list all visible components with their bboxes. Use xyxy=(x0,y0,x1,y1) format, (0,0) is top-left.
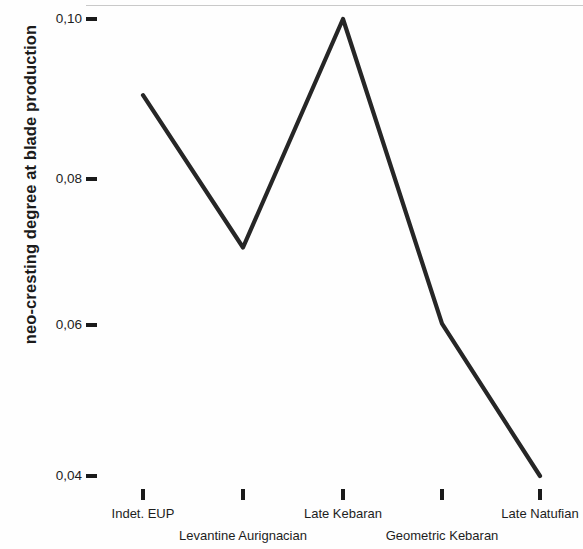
plot-area xyxy=(0,0,583,549)
data-series-line xyxy=(143,19,540,476)
line-chart-figure: neo-cresting degree at blade production … xyxy=(0,0,583,549)
